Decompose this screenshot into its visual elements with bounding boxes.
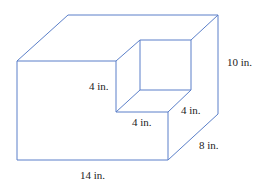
- notch-top-right-depth: [191, 15, 218, 40]
- top-left-depth-edge: [17, 15, 68, 61]
- height-label: 10 in.: [227, 57, 252, 68]
- length-label: 14 in.: [80, 170, 105, 181]
- depth-label: 8 in.: [199, 140, 219, 151]
- figure-canvas: 10 in. 4 in. 4 in. 4 in. 8 in. 14 in.: [0, 0, 262, 182]
- notch-bottom-left-depth: [116, 90, 140, 112]
- notch-height-label: 4 in.: [89, 81, 109, 92]
- notch-top-left-depth: [116, 40, 140, 61]
- notch-depth-label: 4 in.: [181, 105, 201, 116]
- front-face-outline: [17, 61, 168, 160]
- bottom-right-depth-edge: [168, 114, 218, 160]
- notch-back-square: [140, 40, 191, 90]
- notch-width-label: 4 in.: [132, 117, 152, 128]
- prism-drawing: [0, 0, 262, 182]
